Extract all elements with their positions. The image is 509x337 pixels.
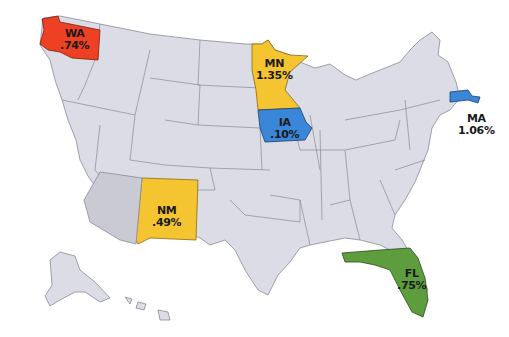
state-ma: [450, 90, 480, 103]
label-mn-value: 1.35%: [256, 70, 293, 82]
label-ma: MA 1.06%: [458, 113, 495, 137]
label-ia-value: .10%: [270, 129, 299, 141]
label-wa: WA .74%: [60, 28, 89, 52]
label-mn: MN 1.35%: [256, 58, 293, 82]
label-fl: FL .75%: [397, 268, 426, 292]
label-fl-value: .75%: [397, 280, 426, 292]
label-ma-value: 1.06%: [458, 125, 495, 137]
label-nm: NM .49%: [152, 205, 181, 229]
label-wa-value: .74%: [60, 40, 89, 52]
label-nm-value: .49%: [152, 217, 181, 229]
label-ia: IA .10%: [270, 117, 299, 141]
